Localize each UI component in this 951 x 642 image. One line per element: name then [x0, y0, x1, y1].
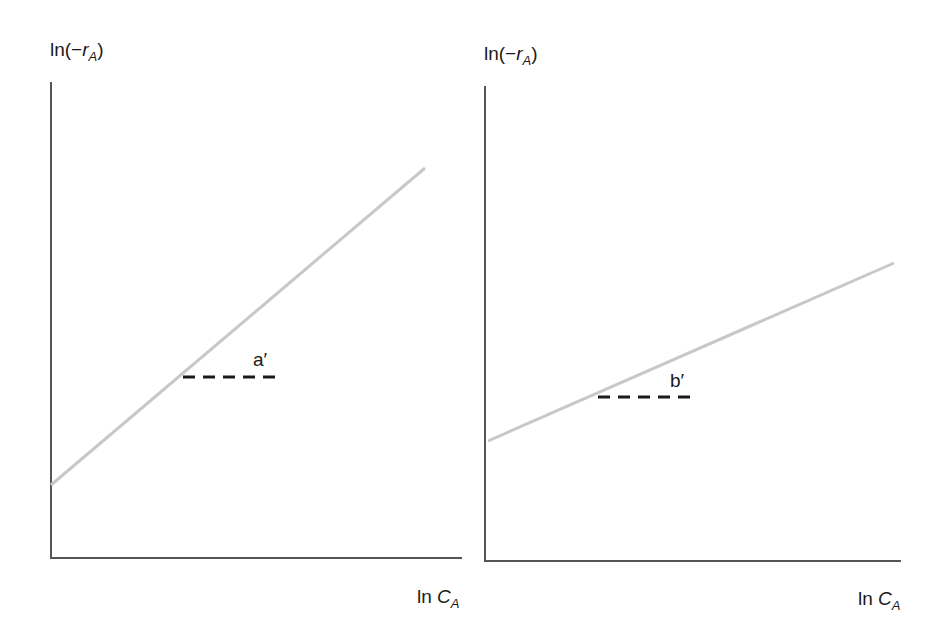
left-y-axis-label: ln(−rA) — [50, 40, 104, 59]
left-slope-label: a′ — [253, 350, 267, 369]
label-sub: A — [89, 49, 98, 64]
label-prefix: ln(− — [50, 39, 82, 60]
right-x-axis-label: ln CA — [858, 589, 900, 608]
left-trend-line — [51, 168, 425, 485]
label-var: C — [878, 588, 892, 609]
right-trend-line — [488, 263, 894, 441]
label-prefix: ln — [417, 586, 437, 607]
left-x-axis-label: ln CA — [417, 587, 459, 606]
label-suffix: ) — [97, 39, 103, 60]
label-suffix: ) — [531, 43, 537, 64]
label-prefix: ln — [858, 588, 878, 609]
label-sub: A — [523, 53, 532, 68]
diagram-canvas — [0, 0, 951, 642]
label-sub: A — [892, 598, 901, 613]
right-y-axis-label: ln(−rA) — [484, 44, 538, 63]
left-panel — [50, 82, 462, 558]
right-panel — [484, 86, 901, 561]
label-prefix: ln(− — [484, 43, 516, 64]
label-var: C — [437, 586, 451, 607]
label-sub: A — [451, 596, 460, 611]
right-slope-label: b′ — [670, 371, 684, 390]
